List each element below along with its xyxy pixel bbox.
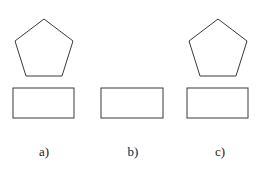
label-c: c) xyxy=(215,144,225,159)
panel-b: b) xyxy=(101,88,163,159)
label-b: b) xyxy=(128,144,139,159)
figure-canvas: a) b) c) xyxy=(0,0,263,172)
rectangle-b xyxy=(101,88,163,118)
pentagon-a xyxy=(15,19,73,76)
panel-c: c) xyxy=(187,19,248,159)
label-a: a) xyxy=(39,144,49,159)
panel-a: a) xyxy=(13,19,74,159)
rectangle-c xyxy=(187,88,248,118)
rectangle-a xyxy=(13,88,74,118)
pentagon-c xyxy=(189,19,247,76)
